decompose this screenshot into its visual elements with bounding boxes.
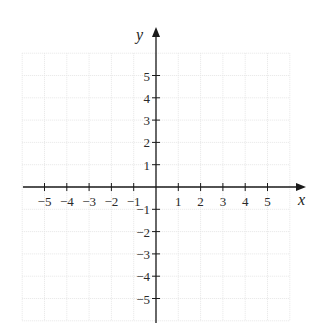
x-tick-label: 2 [197,194,204,209]
x-tick-label: −4 [60,194,74,209]
x-axis-arrow-icon [296,183,306,191]
y-tick-label: −2 [136,225,150,240]
coordinate-plane: −5−4−3−2−11234554321−1−2−3−4−5 x y [0,0,325,332]
y-axis-arrow-icon [152,27,160,37]
y-tick-label: −4 [136,269,150,284]
x-tick-label: 3 [220,194,227,209]
y-tick-label: 2 [144,135,151,150]
y-tick-label: 5 [144,69,151,84]
x-tick-label: 4 [242,194,249,209]
y-tick-label: −3 [136,247,150,262]
y-tick-label: −5 [136,292,150,307]
y-tick-label: 4 [144,91,151,106]
y-tick-label: 3 [144,113,151,128]
x-tick-label: −3 [82,194,96,209]
x-tick-label: 5 [264,194,271,209]
x-tick-label: −5 [38,194,52,209]
y-tick-label: −1 [136,202,150,217]
x-axis-label: x [297,191,305,208]
y-tick-label: 1 [144,158,151,173]
y-axis-label: y [134,26,144,44]
x-tick-label: 1 [175,194,182,209]
axes [23,27,306,323]
x-tick-label: −2 [104,194,118,209]
